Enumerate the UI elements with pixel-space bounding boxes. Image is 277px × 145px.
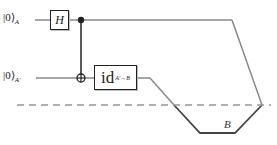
control-dot-icon	[78, 17, 84, 23]
hadamard-gate: H	[50, 10, 69, 30]
system-b-label: B	[224, 118, 231, 130]
input-ket-a-prime: |0⟩A'	[3, 69, 20, 84]
circuit-wires	[0, 0, 277, 145]
identity-channel-gate: idA'→B	[94, 65, 137, 90]
input-ket-a: |0⟩A	[3, 11, 19, 26]
